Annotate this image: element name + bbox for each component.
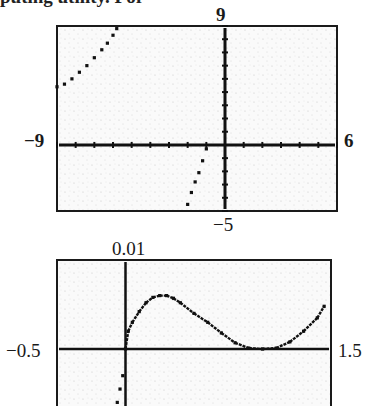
data-point	[70, 77, 73, 80]
data-point	[186, 203, 189, 206]
graph2	[57, 260, 331, 406]
data-point	[194, 180, 197, 183]
data-point	[93, 56, 96, 59]
plots-canvas	[0, 0, 368, 406]
data-point	[63, 83, 66, 86]
data-point	[201, 159, 204, 162]
data-point	[190, 191, 193, 194]
data-point	[118, 387, 121, 390]
graph-frame	[57, 260, 331, 406]
data-point	[205, 147, 208, 150]
data-point	[85, 64, 88, 67]
data-point	[116, 401, 119, 404]
graph-frame	[57, 26, 337, 211]
data-point	[111, 34, 114, 37]
data-point	[106, 42, 109, 45]
data-point	[55, 85, 58, 88]
data-point	[197, 171, 200, 174]
data-point	[115, 27, 118, 30]
data-point	[121, 374, 124, 377]
graph1	[55, 26, 337, 211]
data-point	[78, 71, 81, 74]
data-point	[100, 48, 103, 51]
